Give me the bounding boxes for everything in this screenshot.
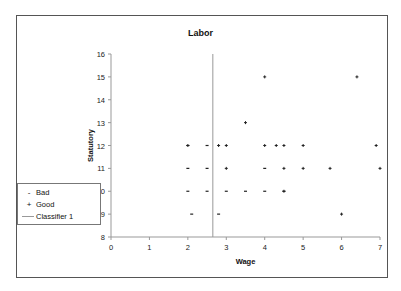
x-tick-label: 0 [109,243,113,252]
legend-label: Bad [36,188,49,197]
y-tick-label: 16 [97,50,105,59]
y-tick-label: 9 [101,210,105,219]
x-tick-label: 6 [339,243,343,252]
y-axis-label: Statutory [86,128,95,162]
y-tick-label: 11 [97,164,105,173]
y-tick-label: 8 [101,233,105,242]
dash-marker-icon: - [22,188,36,197]
x-tick-label: 2 [186,243,190,252]
plus-marker-icon: + [22,200,36,209]
x-tick-label: 1 [147,243,151,252]
x-tick-label: 5 [301,243,305,252]
scatter-plot: 012345678910111213141516WageStatutory [0,0,401,291]
y-tick-label: 14 [97,96,105,105]
line-marker-icon [22,216,34,217]
legend-label: Classifier 1 [36,212,73,221]
legend-item-classifier: Classifier 1 [22,210,96,222]
legend-item-bad: - Bad [22,186,96,198]
x-tick-label: 3 [224,243,228,252]
x-tick-label: 4 [263,243,267,252]
y-tick-label: 13 [97,119,105,128]
x-tick-label: 7 [378,243,382,252]
y-tick-label: 12 [97,142,105,151]
legend: - Bad + Good Classifier 1 [17,183,101,225]
x-axis-label: Wage [236,257,256,266]
legend-label: Good [36,200,54,209]
legend-item-good: + Good [22,198,96,210]
y-tick-label: 15 [97,73,105,82]
